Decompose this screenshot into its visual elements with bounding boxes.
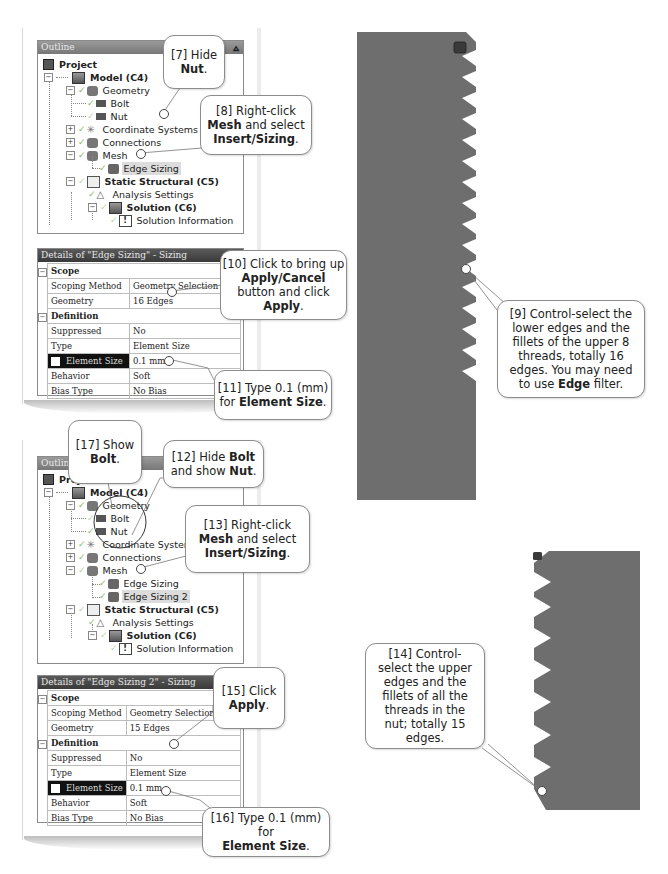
tree-item-geometry[interactable]: − ✓ Geometry [66,499,152,512]
tree-label: Edge Sizing [122,162,181,175]
row-value[interactable]: No [130,324,241,339]
details-row[interactable]: Type Element Size [38,766,241,781]
collapse-icon[interactable]: − [66,566,75,575]
marker-dot [164,356,174,366]
callout-bold: Apply [263,299,300,313]
row-value[interactable]: Element Size [130,339,241,354]
details-row[interactable]: Geometry 16 Edges [38,294,241,309]
tree-item-solution-information[interactable]: ✓ ! Solution Information [110,642,235,655]
section-scope[interactable]: − Scope [38,691,241,706]
tree-item-model[interactable]: − Model (C4) [44,486,150,499]
tree-item-mesh[interactable]: − ✓ Mesh [66,564,130,577]
body-icon [96,100,106,107]
marker-dot [167,287,177,297]
pin-icon[interactable]: ⩟ [233,41,239,54]
tree-item-edge-sizing[interactable]: ✓ Edge Sizing [99,577,181,590]
tree-item-static-structural[interactable]: − ✓ Static Structural (C5) [66,175,221,188]
tree-line [49,75,50,225]
tree-item-project[interactable]: Project [43,58,99,71]
tree-item-coordinate-systems[interactable]: + ✓ ✳ Coordinate Systems [66,538,200,551]
element-size-input[interactable]: 0.1 mm [126,781,240,796]
expand-icon[interactable]: + [66,540,75,549]
callout-text: and show [171,464,226,478]
details-row[interactable]: Element Size 0.1 mm [38,781,241,796]
row-label-highlighted: Element Size [48,354,130,369]
callout-text: Control-select the upper edges and the f… [378,647,472,745]
row-value[interactable]: Element Size [126,766,240,781]
row-value[interactable]: No [126,751,240,766]
tree-label: Project [57,58,99,71]
details-row[interactable]: Geometry 15 Edges [38,721,241,736]
tree-item-coordinate-systems[interactable]: + ✓ ✳ Coordinate Systems [66,123,200,136]
element-size-input[interactable]: 0.1 mm [130,354,241,369]
collapse-icon[interactable]: − [66,177,75,186]
details-row[interactable]: Scoping Method Geometry Selection [38,279,241,294]
collapse-icon[interactable]: − [38,740,47,749]
collapse-icon[interactable]: − [88,631,97,640]
collapse-icon[interactable]: − [88,203,97,212]
section-definition[interactable]: − Definition [38,736,241,751]
details-row[interactable]: Element Size 0.1 mm [38,354,241,369]
collapse-icon[interactable]: − [38,313,47,322]
callout-text: . [323,395,327,409]
details-row[interactable]: Behavior Soft [38,369,241,384]
parameter-checkbox[interactable] [51,357,60,366]
static-structural-icon [87,176,100,188]
expand-icon[interactable]: + [66,138,75,147]
collapse-icon[interactable]: − [66,86,75,95]
parameter-checkbox[interactable] [51,784,60,793]
tree-label: Geometry [101,84,152,97]
tree-item-analysis-settings[interactable]: ✓ △ Analysis Settings [88,616,196,629]
callout-text: . [116,452,120,466]
tree-line [71,103,86,104]
collapse-icon[interactable]: − [66,605,75,614]
tree-item-static-structural[interactable]: − ✓ Static Structural (C5) [66,603,221,616]
section-scope[interactable]: − Scope [38,264,241,279]
details-row[interactable]: Bias Type No Bias [38,384,241,399]
details-row[interactable]: Suppressed No [38,751,241,766]
callout-text: and select [237,532,296,546]
tree-item-nut[interactable]: ✓ Nut [87,525,129,538]
callout-step-11: [11] Type 0.1 (mm)for Element Size. [214,370,332,420]
tree-item-analysis-settings[interactable]: ✓ △ Analysis Settings [88,188,196,201]
tree-item-edge-sizing[interactable]: ✓ Edge Sizing [99,162,181,175]
solution-icon [109,202,122,214]
callout-text: Hide [191,48,217,62]
collapse-icon[interactable]: − [38,268,47,277]
details-row[interactable]: Scoping Method Geometry Selection [38,706,241,721]
check-icon: ✓ [100,201,108,214]
tree-item-connections[interactable]: + ✓ Connections [66,551,163,564]
marker-dot [169,739,179,749]
tree-item-bolt[interactable]: ✓ Bolt [87,512,131,525]
collapse-icon[interactable]: − [66,151,75,160]
details-table: − Scope Scoping Method Geometry Selectio… [38,263,241,399]
tree-item-solution[interactable]: − ✓ Solution (C6) [88,629,199,642]
tree-item-model[interactable]: − Model (C4) [44,71,150,84]
tree-item-geometry[interactable]: − ✓ Geometry [66,84,152,97]
details-row[interactable]: Suppressed No [38,324,241,339]
check-icon: ✓ [78,84,86,97]
expand-icon[interactable]: + [66,553,75,562]
check-icon: ✓ [78,175,86,188]
tree-item-solution-information[interactable]: ✓ ! Solution Information [110,214,235,227]
callout-text: . [253,464,257,478]
tree-item-edge-sizing-2[interactable]: ✓ Edge Sizing 2 [99,590,190,603]
collapse-icon[interactable]: − [44,488,53,497]
tree-item-solution[interactable]: − ✓ Solution (C6) [88,201,199,214]
tree-line [92,156,93,168]
analysis-settings-icon: △ [97,190,108,200]
tree-item-bolt[interactable]: ✓ Bolt [87,97,131,110]
details-row[interactable]: Type Element Size [38,339,241,354]
callout-text: . [287,546,291,560]
collapse-icon[interactable]: − [38,695,47,704]
tree-item-connections[interactable]: + ✓ Connections [66,136,163,149]
check-icon: ✓ [78,551,86,564]
collapse-icon[interactable]: − [44,73,53,82]
tree-item-mesh[interactable]: − ✓ Mesh [66,149,130,162]
callout-bold: Bolt [90,452,116,466]
tree-item-nut[interactable]: ✓ Nut [87,110,129,123]
collapse-icon[interactable]: − [66,501,75,510]
section-definition[interactable]: − Definition [38,309,241,324]
check-icon: ✓ [88,188,96,201]
expand-icon[interactable]: + [66,125,75,134]
